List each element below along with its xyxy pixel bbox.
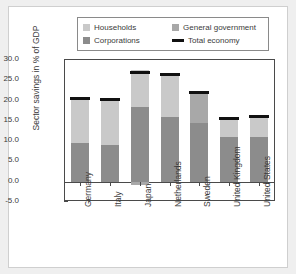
legend-label-general-government: General government xyxy=(183,23,256,32)
x-tick-mark xyxy=(170,182,171,186)
x-tick-mark xyxy=(80,182,81,186)
x-tick-mark xyxy=(259,182,260,186)
x-tick-label: Germany xyxy=(83,172,93,207)
legend-item-total-economy[interactable]: Total economy xyxy=(172,36,263,45)
legend-row-2: Corporations Total economy xyxy=(83,34,263,47)
y-tick-label: 30.0 xyxy=(0,55,19,63)
total-economy-marker[interactable] xyxy=(130,71,150,74)
bar-segment-households[interactable] xyxy=(131,70,149,107)
x-tick-label: Japan xyxy=(143,184,153,207)
bar-segment-households[interactable] xyxy=(71,99,89,143)
bar-segment-corporations[interactable] xyxy=(131,107,149,182)
y-tick-label: 20.0 xyxy=(0,96,19,104)
total-economy-marker[interactable] xyxy=(249,115,269,118)
x-tick-mark xyxy=(229,182,230,186)
total-economy-marker[interactable] xyxy=(100,98,120,101)
bar-segment-corporations[interactable] xyxy=(101,145,119,182)
x-tick-label: Sweden xyxy=(202,176,212,207)
y-tick-label: 0.0 xyxy=(0,177,19,185)
bar-segment-households[interactable] xyxy=(101,100,119,145)
legend-label-corporations: Corporations xyxy=(94,36,140,45)
y-tick-label: -5.0 xyxy=(0,197,19,205)
bar-group[interactable] xyxy=(101,60,119,202)
legend-item-households[interactable]: Households xyxy=(83,23,172,32)
x-tick-label: Netherlands xyxy=(173,161,183,207)
total-economy-marker[interactable] xyxy=(70,97,90,100)
y-tick-mark xyxy=(64,201,68,202)
x-tick-label: United States xyxy=(262,156,272,207)
chart-figure: Households General government Corporatio… xyxy=(8,6,288,268)
x-tick-label: Italy xyxy=(113,191,123,207)
bar-segment-households[interactable] xyxy=(220,119,238,137)
plot-area xyxy=(64,59,275,201)
households-swatch-icon xyxy=(83,24,90,31)
x-tick-mark xyxy=(110,182,111,186)
y-tick-label: 10.0 xyxy=(0,136,19,144)
chart-legend: Households General government Corporatio… xyxy=(77,17,269,51)
y-tick-label: 25.0 xyxy=(0,75,19,83)
bar-segment-general-government[interactable] xyxy=(190,92,208,122)
x-tick-mark xyxy=(199,182,200,186)
corporations-swatch-icon xyxy=(83,37,90,44)
y-tick-label: 5.0 xyxy=(0,156,19,164)
total-economy-marker[interactable] xyxy=(219,117,239,120)
legend-label-households: Households xyxy=(94,23,136,32)
general-government-swatch-icon xyxy=(172,24,179,31)
legend-row-1: Households General government xyxy=(83,21,263,34)
total-economy-marker[interactable] xyxy=(160,73,180,76)
plot-inner xyxy=(65,60,274,200)
legend-label-total-economy: Total economy xyxy=(188,36,240,45)
legend-item-general-government[interactable]: General government xyxy=(172,23,263,32)
x-tick-label: United Kingdom xyxy=(232,147,242,207)
y-axis-title: Sector savings in % of GDP xyxy=(31,3,41,153)
bar-segment-households[interactable] xyxy=(250,117,268,137)
x-tick-mark xyxy=(140,182,141,186)
bar-segment-corporations[interactable] xyxy=(190,123,208,182)
y-tick-label: 15.0 xyxy=(0,116,19,124)
total-economy-marker[interactable] xyxy=(189,91,209,94)
total-economy-line-icon xyxy=(172,39,184,42)
bar-segment-households[interactable] xyxy=(161,74,179,117)
legend-item-corporations[interactable]: Corporations xyxy=(83,36,172,45)
bar-group[interactable] xyxy=(131,60,149,202)
